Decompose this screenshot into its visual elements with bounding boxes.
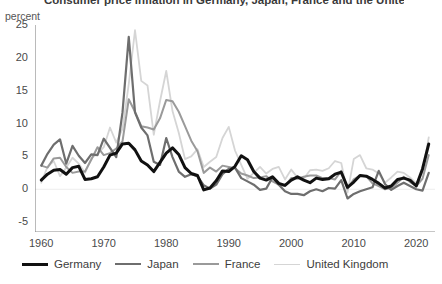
y-tick-label: 15: [2, 84, 28, 96]
legend-swatch-icon: [193, 263, 219, 265]
x-tick-label: 2010: [334, 237, 374, 249]
x-tick-label: 1960: [21, 237, 61, 249]
chart-legend: GermanyJapanFranceUnited Kingdom: [22, 258, 388, 270]
y-tick-label: 5: [2, 149, 28, 161]
x-tick-label: 1970: [84, 237, 124, 249]
plot-area: [35, 25, 435, 232]
chart-title: Consumer price inflation in Germany, Jap…: [44, 0, 404, 6]
inflation-line-chart: Consumer price inflation in Germany, Jap…: [0, 0, 442, 284]
x-tick-label: 1990: [209, 237, 249, 249]
x-tick-label: 1980: [146, 237, 186, 249]
legend-swatch-icon: [274, 264, 300, 265]
x-tick-label: 2000: [271, 237, 311, 249]
legend-item-japan[interactable]: Japan: [115, 258, 178, 270]
x-tick-label: 2020: [396, 237, 436, 249]
plot-svg: [35, 25, 435, 232]
y-tick-label: 20: [2, 51, 28, 63]
legend-swatch-icon: [115, 263, 141, 265]
legend-swatch-icon: [22, 263, 48, 266]
legend-item-united-kingdom[interactable]: United Kingdom: [274, 258, 388, 270]
y-tick-label: 10: [2, 117, 28, 129]
legend-item-germany[interactable]: Germany: [22, 258, 101, 270]
y-tick-label: 0: [2, 182, 28, 194]
legend-label: Japan: [147, 258, 178, 270]
y-tick-label: -5: [2, 215, 28, 227]
legend-item-france[interactable]: France: [193, 258, 261, 270]
legend-label: France: [225, 258, 261, 270]
y-tick-label: 25: [2, 18, 28, 30]
legend-label: Germany: [54, 258, 101, 270]
legend-label: United Kingdom: [306, 258, 388, 270]
